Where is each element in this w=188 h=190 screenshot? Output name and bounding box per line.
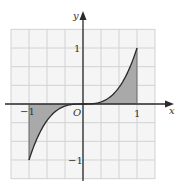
y-axis-label: y [72,10,79,21]
x-tick-pos1: 1 [134,108,140,119]
cubic-function-plot: y x O −1 1 1 −1 [0,0,188,190]
x-tick-neg1: −1 [20,106,35,117]
y-tick-pos1: 1 [74,43,80,54]
y-axis-arrow-icon [80,11,87,20]
y-tick-neg1: −1 [68,155,83,166]
x-axis-label: x [169,105,175,116]
origin-label: O [73,107,81,118]
